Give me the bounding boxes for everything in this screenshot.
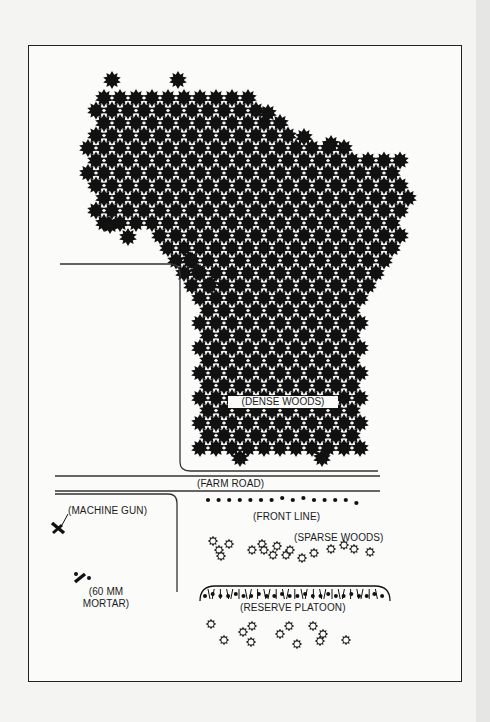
reserve-platoon-label: (RESERVE PLATOON) <box>240 602 346 613</box>
sparse-woods-label: (SPARSE WOODS) <box>294 532 384 543</box>
dense-woods-label: (DENSE WOODS) <box>228 396 338 408</box>
terrain-map <box>0 0 490 722</box>
reserve-platoon-trench <box>200 586 390 601</box>
mortar-label-line2: MORTAR) <box>80 598 132 609</box>
front-line-label: (FRONT LINE) <box>253 511 320 522</box>
farm-road-label: (FARM ROAD) <box>197 478 264 489</box>
machine-gun-label: (MACHINE GUN) <box>68 505 147 516</box>
sparse-woods-lower <box>206 619 351 649</box>
mortar-label-line1: (60 MM <box>80 586 132 597</box>
front-line-positions <box>206 496 359 505</box>
machine-gun-icon <box>52 514 68 533</box>
mortar-icon <box>74 572 91 582</box>
